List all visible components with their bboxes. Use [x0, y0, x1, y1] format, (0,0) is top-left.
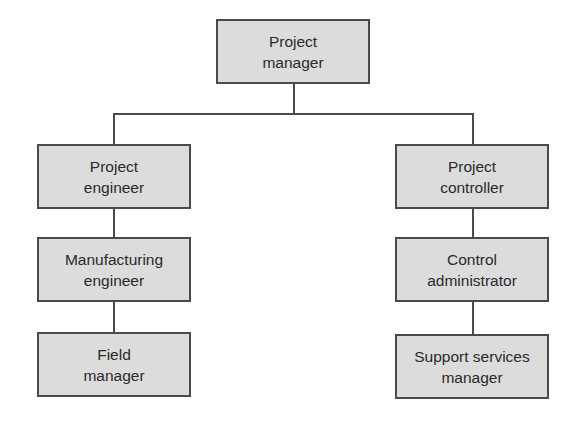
node-project-engineer: Project engineer: [37, 144, 191, 209]
node-support-services-manager: Support services manager: [395, 334, 549, 399]
connector-left-2-3: [113, 301, 115, 333]
node-project-manager: Project manager: [216, 19, 370, 84]
connector-right-1-2: [472, 208, 474, 238]
node-label: Support services manager: [414, 346, 529, 388]
node-control-administrator: Control administrator: [395, 237, 549, 302]
node-label: Project engineer: [84, 156, 144, 198]
connector-left-down: [113, 113, 115, 145]
connector-root-down: [293, 83, 295, 115]
connector-horizontal-bar: [113, 113, 474, 115]
node-label: Field manager: [83, 344, 144, 386]
node-label: Manufacturing engineer: [65, 249, 163, 291]
node-manufacturing-engineer: Manufacturing engineer: [37, 237, 191, 302]
node-label: Project manager: [262, 31, 323, 73]
node-label: Project controller: [440, 156, 504, 198]
connector-right-2-3: [472, 301, 474, 335]
connector-right-down: [472, 113, 474, 145]
node-field-manager: Field manager: [37, 332, 191, 397]
connector-left-1-2: [113, 208, 115, 238]
node-project-controller: Project controller: [395, 144, 549, 209]
node-label: Control administrator: [427, 249, 517, 291]
